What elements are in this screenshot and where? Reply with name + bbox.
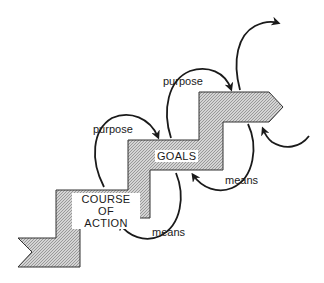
incoming-arrow [263, 129, 309, 147]
means-label-upper: means [225, 175, 258, 186]
course-of-action-line1: COURSE OF [74, 193, 138, 217]
goals-label: GOALS [155, 150, 198, 162]
course-of-action-line2: ACTION [74, 217, 138, 229]
purpose-label-lower: purpose [93, 124, 133, 135]
staircase-diagram [0, 0, 324, 283]
exit-arrow [236, 22, 278, 90]
means-label-lower: means [152, 227, 185, 238]
course-of-action-label: COURSE OF ACTION [72, 193, 140, 229]
purpose-label-upper: purpose [163, 76, 203, 87]
